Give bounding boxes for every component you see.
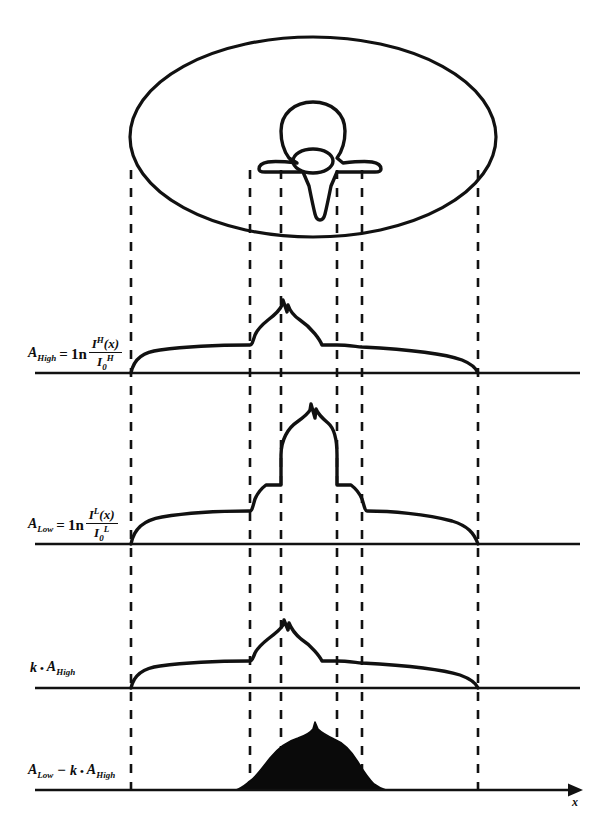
a-high-den-sup: H (107, 353, 114, 363)
a-high-ln: 1n (71, 346, 87, 363)
a-low-equals: = (56, 517, 65, 534)
sub-a-low-symbol: A (28, 762, 37, 777)
projection-dashed-lines (131, 170, 478, 790)
a-low-fraction: IL(x) I0L (86, 507, 118, 543)
k-a-high-subscript: High (56, 667, 75, 677)
k-symbol: k (30, 660, 37, 676)
a-high-equals: = (59, 346, 68, 363)
x-axis-label: x (572, 795, 578, 810)
a-low-ln: 1n (68, 517, 84, 534)
a-low-num-arg: (x) (99, 507, 114, 522)
a-high-fraction: IH(x) I0H (89, 336, 122, 372)
a-low-den-sub: 0 (99, 533, 104, 543)
a-low-symbol: A (28, 516, 37, 531)
curve-a-high (131, 300, 478, 373)
sub-a-low-subscript: Low (37, 770, 53, 780)
vertebra-outline (259, 102, 381, 220)
curve-k-a-high (131, 620, 478, 688)
curve-subtraction-filled (236, 722, 386, 790)
label-subtraction: ALow − k • AHigh (28, 762, 115, 780)
curve-a-low (131, 404, 478, 544)
a-high-den-sub: 0 (102, 362, 107, 372)
a-high-num-arg: (x) (104, 336, 119, 351)
a-high-num-sup: H (97, 335, 104, 345)
spinal-canal (293, 149, 333, 173)
panel-subtraction (35, 722, 583, 797)
sub-a-high-subscript: High (96, 770, 115, 780)
panel-k-a-high (35, 620, 580, 688)
a-high-symbol: A (28, 345, 37, 360)
label-a-high: AHigh = 1n IH(x) I0H (28, 336, 124, 372)
sub-a-high-symbol: A (87, 762, 96, 777)
minus-sign: − (57, 762, 66, 779)
multiplication-dot: • (40, 662, 44, 674)
sub-multiplication-dot: • (80, 765, 84, 777)
a-low-den-sup: L (104, 524, 110, 534)
k-a-high-symbol: A (47, 659, 56, 674)
dual-energy-figure (0, 0, 609, 828)
sub-k-symbol: k (70, 763, 77, 779)
a-high-subscript: High (37, 353, 56, 363)
a-low-subscript: Low (37, 524, 53, 534)
label-a-low: ALow = 1n IL(x) I0L (28, 507, 120, 543)
label-k-a-high: k • AHigh (30, 659, 75, 677)
